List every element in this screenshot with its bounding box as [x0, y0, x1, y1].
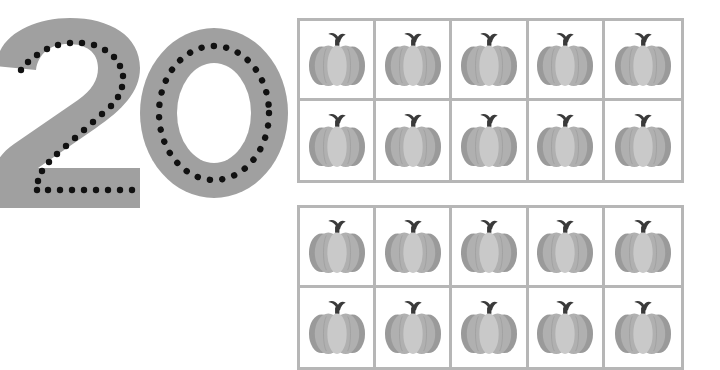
pumpkin-icon	[384, 299, 442, 355]
ten-frame-cell[interactable]	[376, 208, 452, 288]
pumpkin-icon	[460, 112, 518, 168]
ten-frame-cell[interactable]	[300, 101, 376, 181]
ten-frame-cell[interactable]	[605, 21, 681, 101]
ten-frame-cell[interactable]	[529, 208, 605, 288]
ten-frame-cell[interactable]	[452, 101, 528, 181]
pumpkin-icon	[536, 31, 594, 87]
digit-2-glyph	[0, 18, 140, 208]
pumpkin-icon	[460, 218, 518, 274]
pumpkin-icon	[460, 299, 518, 355]
pumpkin-icon	[614, 31, 672, 87]
ten-frame-cell[interactable]	[452, 208, 528, 288]
ten-frame-cell[interactable]	[452, 288, 528, 368]
ten-frame-1	[297, 18, 684, 183]
ten-frame-cell[interactable]	[376, 21, 452, 101]
ten-frame-cell[interactable]	[605, 288, 681, 368]
ten-frame-cell[interactable]	[605, 208, 681, 288]
ten-frame-cell[interactable]	[376, 101, 452, 181]
ten-frame-cell[interactable]	[300, 208, 376, 288]
pumpkin-icon	[536, 112, 594, 168]
ten-frame-cell[interactable]	[605, 101, 681, 181]
pumpkin-icon	[308, 31, 366, 87]
ten-frame-cell[interactable]	[300, 21, 376, 101]
pumpkin-icon	[384, 112, 442, 168]
pumpkin-icon	[614, 299, 672, 355]
numeral-20-graphic	[0, 14, 292, 209]
numeral-trace-area	[0, 0, 292, 357]
pumpkin-icon	[308, 218, 366, 274]
ten-frame-cell[interactable]	[529, 21, 605, 101]
pumpkin-icon	[460, 31, 518, 87]
pumpkin-icon	[384, 31, 442, 87]
ten-frame-cell[interactable]	[452, 21, 528, 101]
pumpkin-icon	[308, 299, 366, 355]
pumpkin-icon	[384, 218, 442, 274]
pumpkin-icon	[536, 299, 594, 355]
ten-frame-cell[interactable]	[376, 288, 452, 368]
ten-frame-cell[interactable]	[529, 101, 605, 181]
pumpkin-icon	[614, 112, 672, 168]
ten-frame-cell[interactable]	[300, 288, 376, 368]
pumpkin-icon	[308, 112, 366, 168]
ten-frame-2	[297, 205, 684, 370]
ten-frame-cell[interactable]	[529, 288, 605, 368]
pumpkin-icon	[614, 218, 672, 274]
pumpkin-icon	[536, 218, 594, 274]
